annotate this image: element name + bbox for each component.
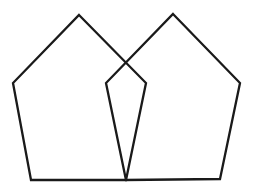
diagram-canvas xyxy=(0,0,253,187)
left-pentagon xyxy=(13,15,146,180)
right-pentagon xyxy=(106,14,240,180)
overlapping-pentagons-figure xyxy=(0,0,253,187)
